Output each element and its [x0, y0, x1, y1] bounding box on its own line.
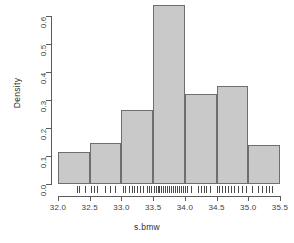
rug-tick: [167, 186, 168, 193]
rug-tick: [143, 186, 144, 193]
rug-tick: [85, 186, 86, 193]
x-axis-tick: [153, 196, 154, 201]
rug-tick: [246, 186, 247, 193]
rug-tick: [252, 186, 253, 193]
x-axis-tick: [90, 196, 91, 201]
rug-tick: [231, 186, 232, 193]
x-axis-tick: [248, 196, 249, 201]
x-axis-tick: [58, 196, 59, 201]
histogram-bar: [90, 143, 122, 184]
rug-tick: [198, 186, 199, 193]
rug-tick: [91, 186, 92, 193]
rug-tick: [173, 186, 174, 193]
histogram-bar: [153, 5, 185, 184]
y-axis-tick-label: 0.1: [40, 157, 49, 169]
rug-tick: [105, 186, 106, 193]
plot-panel: [58, 12, 280, 184]
x-axis-tick-label: 33.0: [106, 203, 136, 212]
x-axis-tick-label: 32.5: [75, 203, 105, 212]
x-axis-tick-label: 34.5: [202, 203, 232, 212]
x-axis-tick-label: 33.5: [138, 203, 168, 212]
rug-tick: [242, 186, 243, 193]
rug-tick: [97, 186, 98, 193]
x-axis-tick-label: 32.0: [43, 203, 73, 212]
histogram-bar: [185, 94, 217, 184]
rug-tick: [149, 186, 150, 193]
rug-tick: [140, 186, 141, 193]
histogram-bar: [121, 110, 153, 184]
x-axis-tick: [217, 196, 218, 201]
x-axis-tick: [121, 196, 122, 201]
rug-tick: [210, 186, 211, 193]
y-axis-line: [51, 16, 52, 185]
rug-tick: [159, 186, 160, 193]
y-axis-tick-label: 0.2: [40, 129, 49, 141]
rug-tick: [79, 186, 80, 193]
rug-tick: [272, 186, 273, 193]
histogram-bar: [58, 152, 90, 184]
rug-tick: [132, 186, 133, 193]
rug-tick: [183, 186, 184, 193]
rug-tick: [222, 186, 223, 193]
rug-tick: [169, 186, 170, 193]
rug-tick: [258, 186, 259, 193]
rug-tick: [161, 186, 162, 193]
rug-tick: [137, 186, 138, 193]
y-axis-tick-label: 0.4: [40, 73, 49, 85]
rug-tick: [94, 186, 95, 193]
rug-tick: [125, 186, 126, 193]
rug-tick: [177, 186, 178, 193]
rug-tick: [262, 186, 263, 193]
y-axis-label: Density: [12, 63, 22, 123]
rug-tick: [228, 186, 229, 193]
rug-tick: [115, 186, 116, 193]
y-axis-tick-label: 0.6: [40, 17, 49, 29]
rug-tick: [134, 186, 135, 193]
x-axis-tick: [280, 196, 281, 201]
rug-tick: [238, 186, 239, 193]
rug-tick: [151, 186, 152, 193]
rug-tick: [225, 186, 226, 193]
rug-tick: [165, 186, 166, 193]
rug-tick: [201, 186, 202, 193]
x-axis-tick: [185, 196, 186, 201]
rug-tick: [204, 186, 205, 193]
rug-tick: [129, 186, 130, 193]
histogram-bar: [248, 145, 280, 184]
rug-tick: [147, 186, 148, 193]
rug-tick: [110, 186, 111, 193]
rug-tick: [171, 186, 172, 193]
rug-tick: [179, 186, 180, 193]
rug-tick: [219, 186, 220, 193]
rug-tick: [266, 186, 267, 193]
rug-tick: [123, 186, 124, 193]
x-axis-label: s.bmw: [0, 222, 294, 232]
rug-tick: [187, 186, 188, 193]
rug-tick: [154, 186, 155, 193]
rug-tick: [191, 186, 192, 193]
rug-tick: [77, 186, 78, 193]
x-axis-line: [58, 196, 280, 197]
rug-plot: [58, 186, 280, 193]
x-axis-tick-label: 35.0: [233, 203, 263, 212]
rug-tick: [163, 186, 164, 193]
histogram-plot: 0.00.10.20.30.40.50.6 Density 32.032.533…: [0, 0, 294, 243]
y-axis-tick-label: 0.5: [40, 45, 49, 57]
rug-tick: [175, 186, 176, 193]
x-axis-tick-label: 34.0: [170, 203, 200, 212]
rug-tick: [185, 186, 186, 193]
rug-tick: [206, 186, 207, 193]
rug-tick: [156, 186, 157, 193]
histogram-bar: [217, 86, 249, 184]
x-axis-tick-label: 35.5: [265, 203, 294, 212]
y-axis-tick-label: 0.3: [40, 101, 49, 113]
rug-tick: [217, 186, 218, 193]
y-axis-tick-label: 0.0: [40, 185, 49, 197]
rug-tick: [181, 186, 182, 193]
rug-tick: [269, 186, 270, 193]
rug-tick: [234, 186, 235, 193]
